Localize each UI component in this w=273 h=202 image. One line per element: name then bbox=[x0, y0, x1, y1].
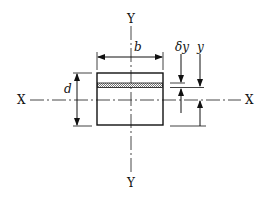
depth-label: d bbox=[64, 82, 72, 96]
depth-dimension bbox=[73, 73, 92, 126]
x-axis-left-label: X bbox=[17, 93, 26, 107]
width-dimension bbox=[97, 52, 163, 70]
y-axis-bottom-label: Y bbox=[126, 176, 136, 190]
x-axis-right-label: X bbox=[245, 93, 254, 107]
width-label: b bbox=[134, 40, 142, 54]
cross-section-rectangle bbox=[97, 73, 163, 125]
y-axis-top-label: Y bbox=[126, 12, 136, 26]
strip-dimensions bbox=[170, 54, 206, 126]
strip-distance-label: y bbox=[196, 40, 204, 54]
hatched-strip bbox=[98, 83, 163, 88]
strip-thickness-label: δy bbox=[175, 40, 189, 54]
section-diagram: X X Y Y b d δy y bbox=[0, 0, 273, 202]
